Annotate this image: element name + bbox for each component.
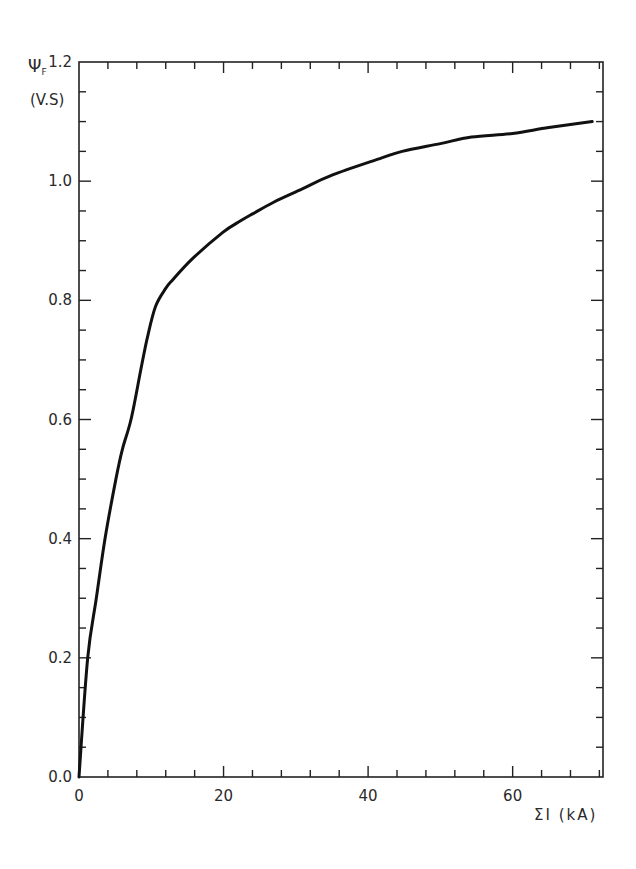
x-tick-labels: 0204060 [74,787,522,805]
flux-current-chart: 0204060 0.00.20.40.60.81.01.2 ΨF (V.S) Σ… [0,0,636,869]
x-tick-label: 0 [74,787,84,805]
y-tick-label: 0.2 [48,649,72,667]
y-tick-label: 0.6 [48,411,72,429]
x-axis-title: ΣI (kA) [534,806,597,824]
y-tick-label: 0.4 [48,530,72,548]
y-tick-labels: 0.00.20.40.60.81.01.2 [48,53,72,786]
y-tick-label: 0.0 [48,768,72,786]
y-axis-unit: (V.S) [30,91,64,109]
y-tick-label: 1.0 [48,172,72,190]
axis-ticks [79,62,603,777]
plot-frame [79,62,603,777]
x-tick-label: 20 [214,787,233,805]
flux-curve [79,122,592,777]
x-tick-label: 60 [503,787,522,805]
y-axis-symbol: ΨF [28,56,47,77]
y-tick-label: 1.2 [48,53,72,71]
y-axis-subscript: F [41,67,46,77]
y-axis-psi: Ψ [28,56,41,76]
x-tick-label: 40 [359,787,378,805]
y-tick-label: 0.8 [48,291,72,309]
